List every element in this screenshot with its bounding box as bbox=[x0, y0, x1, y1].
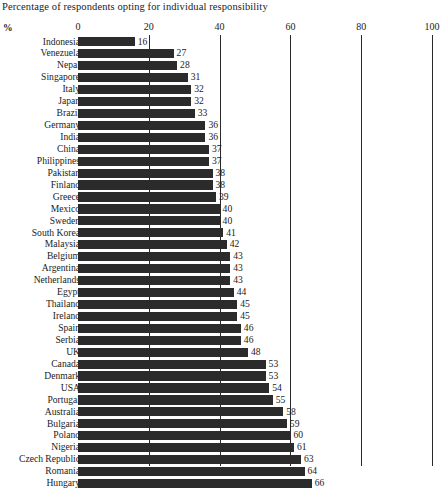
bar-row: Argentina43 bbox=[0, 263, 443, 275]
bar-value-label: 46 bbox=[244, 334, 254, 346]
bar-value-label: 54 bbox=[272, 382, 282, 394]
bar bbox=[78, 431, 290, 440]
bar-value-label: 43 bbox=[233, 274, 243, 286]
bar bbox=[78, 467, 305, 476]
bar-row: Thailand45 bbox=[0, 299, 443, 311]
bar bbox=[78, 85, 191, 94]
bar bbox=[78, 288, 234, 297]
bar-row: Belgium43 bbox=[0, 251, 443, 263]
bar bbox=[78, 133, 205, 142]
bar-row: Spain46 bbox=[0, 323, 443, 335]
bar-value-label: 37 bbox=[212, 155, 222, 167]
bar-row: Philippines37 bbox=[0, 155, 443, 167]
bar bbox=[78, 419, 287, 428]
category-label: Belgium bbox=[47, 250, 80, 262]
category-label: China bbox=[57, 143, 80, 155]
bar bbox=[78, 109, 195, 118]
category-label: Nigeria bbox=[51, 441, 80, 453]
bar-value-label: 40 bbox=[223, 215, 233, 227]
x-tick-label: 40 bbox=[215, 21, 225, 32]
category-label: Romania bbox=[45, 465, 80, 477]
bar bbox=[78, 49, 174, 58]
bar bbox=[78, 252, 230, 261]
bar bbox=[78, 407, 283, 416]
category-label: Egypt bbox=[57, 286, 80, 298]
bar-value-label: 40 bbox=[223, 203, 233, 215]
category-label: Philippines bbox=[37, 155, 80, 167]
bar bbox=[78, 97, 191, 106]
category-label: South Korea bbox=[32, 227, 80, 239]
bar-value-label: 53 bbox=[269, 358, 279, 370]
bar-row: Nigeria61 bbox=[0, 442, 443, 454]
x-tick-label: 20 bbox=[144, 21, 154, 32]
bar-value-label: 39 bbox=[219, 191, 229, 203]
category-label: Japan bbox=[58, 95, 80, 107]
bar-row: Pakistan38 bbox=[0, 167, 443, 179]
x-tick-label: 100 bbox=[425, 21, 440, 32]
bar-value-label: 44 bbox=[237, 286, 247, 298]
bar bbox=[78, 240, 227, 249]
bar-row: Finland38 bbox=[0, 179, 443, 191]
bar-value-label: 31 bbox=[191, 71, 201, 83]
bar bbox=[78, 360, 266, 369]
bar bbox=[78, 61, 177, 70]
x-tick-label: 0 bbox=[76, 21, 81, 32]
bar-value-label: 43 bbox=[233, 262, 243, 274]
category-label: Pakistan bbox=[47, 167, 80, 179]
bar-value-label: 16 bbox=[138, 36, 148, 48]
bar bbox=[78, 204, 220, 213]
bar bbox=[78, 37, 135, 46]
bar bbox=[78, 264, 230, 273]
bar-value-label: 61 bbox=[297, 441, 307, 453]
bar bbox=[78, 479, 312, 488]
bar bbox=[78, 336, 241, 345]
category-label: Thailand bbox=[46, 298, 80, 310]
bar-value-label: 48 bbox=[251, 346, 261, 358]
category-label: Nepal bbox=[57, 59, 80, 71]
bar-row: Germany36 bbox=[0, 120, 443, 132]
bar-row: USA54 bbox=[0, 382, 443, 394]
bar-row: Denmark53 bbox=[0, 370, 443, 382]
category-label: Argentina bbox=[42, 262, 80, 274]
bar-value-label: 43 bbox=[233, 250, 243, 262]
bar-value-label: 58 bbox=[286, 406, 296, 418]
bar-row: Singapore31 bbox=[0, 72, 443, 84]
category-label: Hungary bbox=[46, 477, 80, 489]
category-label: Ireland bbox=[53, 310, 80, 322]
x-tick-label: 60 bbox=[285, 21, 295, 32]
bar bbox=[78, 216, 220, 225]
bar-rows: Indonesia16Venezuela27Nepal28Singapore31… bbox=[0, 36, 443, 490]
bar bbox=[78, 455, 301, 464]
bar-value-label: 28 bbox=[180, 59, 190, 71]
bar-value-label: 41 bbox=[226, 227, 236, 239]
bar-row: Mexico40 bbox=[0, 203, 443, 215]
bar-value-label: 36 bbox=[208, 119, 218, 131]
category-label: Canada bbox=[51, 358, 80, 370]
category-label: Australia bbox=[45, 406, 80, 418]
category-label: Malaysia bbox=[45, 238, 80, 250]
bar bbox=[78, 383, 269, 392]
bar-row: UK48 bbox=[0, 346, 443, 358]
category-label: Poland bbox=[53, 429, 80, 441]
category-label: Sweden bbox=[50, 215, 80, 227]
bar-row: India36 bbox=[0, 132, 443, 144]
bar-row: South Korea41 bbox=[0, 227, 443, 239]
bar-row: Serbia46 bbox=[0, 334, 443, 346]
bar-row: Australia58 bbox=[0, 406, 443, 418]
category-label: Singapore bbox=[41, 71, 80, 83]
bar bbox=[78, 228, 223, 237]
bar-row: Venezuela27 bbox=[0, 48, 443, 60]
bar-value-label: 45 bbox=[240, 310, 250, 322]
bar-value-label: 55 bbox=[276, 394, 286, 406]
category-label: Mexico bbox=[51, 203, 80, 215]
bar-row: Italy32 bbox=[0, 84, 443, 96]
bar bbox=[78, 192, 216, 201]
bar-row: Canada53 bbox=[0, 358, 443, 370]
bar-row: Netherlands43 bbox=[0, 275, 443, 287]
bar-row: Portugal55 bbox=[0, 394, 443, 406]
bar-row: Greece39 bbox=[0, 191, 443, 203]
bar-value-label: 32 bbox=[194, 95, 204, 107]
bar-row: Romania64 bbox=[0, 466, 443, 478]
bar-value-label: 46 bbox=[244, 322, 254, 334]
bar-value-label: 60 bbox=[293, 429, 303, 441]
